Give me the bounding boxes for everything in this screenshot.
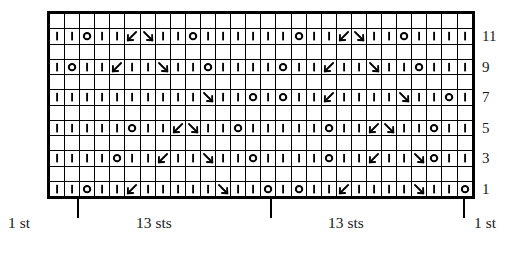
chart-cell[interactable]: [366, 120, 381, 135]
chart-cell[interactable]: [155, 120, 170, 135]
chart-cell[interactable]: [397, 151, 412, 166]
chart-cell[interactable]: [80, 166, 95, 181]
chart-cell[interactable]: [80, 105, 95, 120]
chart-cell[interactable]: [50, 14, 65, 29]
chart-cell[interactable]: [246, 90, 261, 105]
chart-cell[interactable]: [95, 14, 110, 29]
chart-cell[interactable]: [442, 14, 457, 29]
chart-cell[interactable]: [200, 120, 215, 135]
chart-cell[interactable]: [140, 136, 155, 151]
chart-cell[interactable]: [382, 44, 397, 59]
chart-cell[interactable]: [261, 44, 276, 59]
chart-cell[interactable]: [50, 90, 65, 105]
chart-cell[interactable]: [457, 90, 472, 105]
chart-cell[interactable]: [427, 90, 442, 105]
chart-cell[interactable]: [457, 151, 472, 166]
chart-cell[interactable]: [50, 120, 65, 135]
chart-cell[interactable]: [140, 120, 155, 135]
chart-cell[interactable]: [231, 136, 246, 151]
chart-cell[interactable]: [125, 151, 140, 166]
chart-cell[interactable]: [110, 59, 125, 74]
chart-cell[interactable]: [155, 29, 170, 44]
chart-cell[interactable]: [397, 59, 412, 74]
chart-cell[interactable]: [155, 136, 170, 151]
chart-cell[interactable]: [382, 181, 397, 196]
chart-cell[interactable]: [291, 151, 306, 166]
chart-cell[interactable]: [125, 59, 140, 74]
chart-cell[interactable]: [261, 29, 276, 44]
chart-cell[interactable]: [427, 14, 442, 29]
chart-cell[interactable]: [442, 105, 457, 120]
chart-cell[interactable]: [95, 29, 110, 44]
chart-cell[interactable]: [276, 166, 291, 181]
chart-cell[interactable]: [125, 44, 140, 59]
chart-cell[interactable]: [366, 59, 381, 74]
chart-cell[interactable]: [366, 75, 381, 90]
chart-cell[interactable]: [366, 151, 381, 166]
chart-cell[interactable]: [231, 90, 246, 105]
chart-cell[interactable]: [442, 59, 457, 74]
chart-cell[interactable]: [306, 151, 321, 166]
chart-cell[interactable]: [65, 120, 80, 135]
chart-cell[interactable]: [110, 151, 125, 166]
chart-cell[interactable]: [412, 44, 427, 59]
chart-cell[interactable]: [382, 120, 397, 135]
chart-cell[interactable]: [291, 166, 306, 181]
chart-cell[interactable]: [366, 166, 381, 181]
chart-cell[interactable]: [336, 75, 351, 90]
chart-cell[interactable]: [200, 151, 215, 166]
chart-cell[interactable]: [110, 181, 125, 196]
chart-cell[interactable]: [291, 90, 306, 105]
chart-cell[interactable]: [125, 181, 140, 196]
chart-cell[interactable]: [140, 14, 155, 29]
chart-cell[interactable]: [382, 166, 397, 181]
chart-cell[interactable]: [216, 105, 231, 120]
chart-cell[interactable]: [261, 166, 276, 181]
chart-cell[interactable]: [412, 90, 427, 105]
chart-cell[interactable]: [170, 181, 185, 196]
chart-cell[interactable]: [246, 44, 261, 59]
chart-cell[interactable]: [110, 14, 125, 29]
chart-cell[interactable]: [351, 136, 366, 151]
chart-cell[interactable]: [427, 105, 442, 120]
chart-cell[interactable]: [50, 166, 65, 181]
chart-cell[interactable]: [185, 136, 200, 151]
chart-cell[interactable]: [321, 181, 336, 196]
chart-cell[interactable]: [231, 151, 246, 166]
chart-cell[interactable]: [170, 75, 185, 90]
chart-cell[interactable]: [321, 75, 336, 90]
chart-cell[interactable]: [50, 136, 65, 151]
chart-cell[interactable]: [216, 75, 231, 90]
chart-cell[interactable]: [291, 75, 306, 90]
chart-cell[interactable]: [65, 136, 80, 151]
chart-cell[interactable]: [427, 75, 442, 90]
chart-cell[interactable]: [50, 181, 65, 196]
chart-cell[interactable]: [261, 151, 276, 166]
chart-cell[interactable]: [306, 14, 321, 29]
chart-cell[interactable]: [200, 166, 215, 181]
chart-cell[interactable]: [457, 105, 472, 120]
chart-cell[interactable]: [110, 136, 125, 151]
chart-cell[interactable]: [291, 136, 306, 151]
chart-cell[interactable]: [276, 181, 291, 196]
chart-cell[interactable]: [80, 120, 95, 135]
chart-cell[interactable]: [65, 90, 80, 105]
chart-cell[interactable]: [306, 29, 321, 44]
chart-cell[interactable]: [336, 90, 351, 105]
chart-cell[interactable]: [140, 44, 155, 59]
chart-cell[interactable]: [231, 120, 246, 135]
chart-cell[interactable]: [95, 75, 110, 90]
chart-cell[interactable]: [50, 29, 65, 44]
chart-cell[interactable]: [382, 59, 397, 74]
chart-cell[interactable]: [276, 44, 291, 59]
chart-cell[interactable]: [155, 151, 170, 166]
chart-cell[interactable]: [200, 44, 215, 59]
chart-cell[interactable]: [321, 90, 336, 105]
chart-cell[interactable]: [276, 14, 291, 29]
chart-cell[interactable]: [382, 14, 397, 29]
chart-cell[interactable]: [351, 90, 366, 105]
chart-cell[interactable]: [412, 29, 427, 44]
chart-cell[interactable]: [246, 75, 261, 90]
chart-cell[interactable]: [155, 105, 170, 120]
chart-cell[interactable]: [170, 90, 185, 105]
